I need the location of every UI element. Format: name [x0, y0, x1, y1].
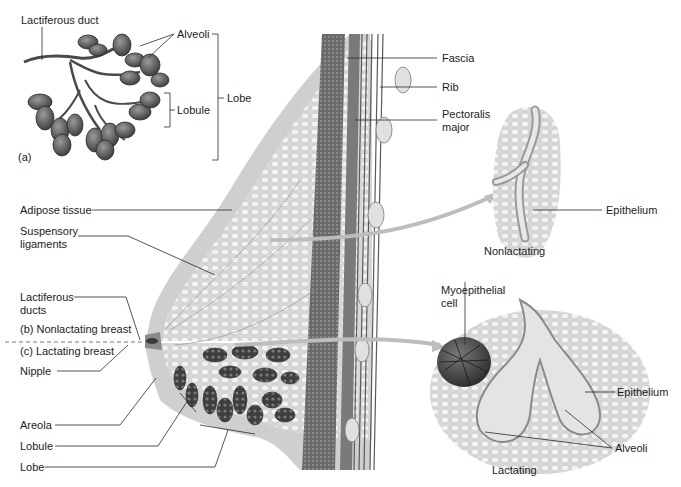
label-alveoli-lactating: Alveoli	[615, 442, 647, 455]
breast-cross-section	[5, 34, 411, 470]
label-fascia: Fascia	[442, 52, 474, 65]
label-lobe: Lobe	[20, 461, 44, 474]
label-lactating-breast: (c) Lactating breast	[20, 345, 114, 358]
label-lobule-a: Lobule	[177, 104, 210, 117]
label-suspensory-ligaments-2: ligaments	[20, 238, 67, 251]
caption-lactating: Lactating	[492, 464, 537, 476]
lobe-tree-illustration	[24, 27, 224, 160]
label-alveoli-a: Alveoli	[177, 28, 209, 41]
label-lactiferous-ducts-1: Lactiferous	[20, 291, 74, 304]
label-pectoralis-major-2: major	[442, 121, 470, 134]
label-pectoralis-major-1: Pectoralis	[442, 108, 490, 121]
breast-anatomy-illustration	[0, 0, 681, 487]
label-nipple: Nipple	[20, 365, 51, 378]
label-lobule: Lobule	[20, 440, 53, 453]
label-areola: Areola	[20, 419, 52, 432]
label-suspensory-ligaments-1: Suspensory	[20, 225, 78, 238]
label-myoepithelial-cell-1: Myoepithelial	[441, 284, 505, 297]
label-lactiferous-duct: Lactiferous duct	[21, 14, 99, 27]
label-epithelium-nonlactating: Epithelium	[606, 204, 657, 217]
label-adipose-tissue: Adipose tissue	[20, 204, 92, 217]
nonlactating-inset	[493, 107, 602, 258]
label-rib: Rib	[442, 81, 459, 94]
label-myoepithelial-cell-2: cell	[441, 297, 458, 310]
label-lobe-a: Lobe	[227, 92, 251, 105]
label-nonlactating-breast: (b) Nonlactating breast	[20, 323, 131, 336]
label-lactiferous-ducts-2: ducts	[20, 304, 46, 317]
panel-a-marker: (a)	[18, 151, 31, 164]
caption-nonlactating: Nonlactating	[484, 245, 545, 257]
label-epithelium-lactating: Epithelium	[617, 386, 668, 399]
